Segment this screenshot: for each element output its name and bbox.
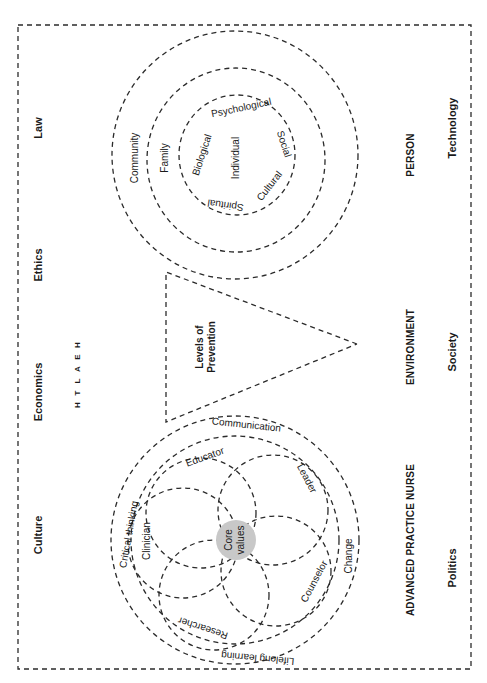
lifelong-learning-label: Lifelong learning [221,650,295,667]
leader-label: Leader [295,462,320,495]
biological-label: Biological [190,133,214,177]
clinician-label: Clinician [141,522,152,560]
context-economics: Economics [32,363,44,422]
educator-label: Educator [184,444,226,468]
core-label: Core [223,529,234,551]
context-technology: Technology [446,97,458,159]
apn-group: Core values Communication Change Lifelon… [111,415,359,667]
social-label: Social [275,129,294,158]
health-letter: E [73,354,82,360]
critical-thinking-label: Critical thinking [117,500,140,569]
apn-title: ADVANCED PRACTICE NURSE [405,464,416,616]
environment-title: ENVIRONMENT [405,309,416,385]
levels-of-label: Levels of [194,325,205,369]
health-letter: A [73,366,82,372]
change-label: Change [343,538,354,573]
values-label: values [235,526,246,555]
person-group: Community Family Individual Biological P… [112,31,358,279]
individual-label: Individual [230,137,241,179]
context-politics: Politics [446,548,458,587]
health-letter: H [73,402,82,408]
community-label: Community [129,133,140,184]
context-culture: Culture [32,516,44,555]
context-law: Law [32,117,44,139]
prevention-label: Prevention [206,321,217,373]
spiritual-label: Spiritual [207,198,244,214]
communication-label: Communication [211,415,281,433]
apn-model-diagram: Community Family Individual Biological P… [0,0,487,683]
context-society: Society [446,332,458,372]
health-letter: H [73,342,82,348]
environment-frame [18,25,471,669]
health-letter: L [73,378,82,383]
researcher-label: Researcher [176,615,229,642]
family-label: Family [159,143,170,172]
person-title: PERSON [405,133,416,176]
health-letter: T [73,390,82,395]
psychological-label: Psychological [210,96,272,119]
counselor-label: Counselor [298,558,329,604]
environment-group: Levels of Prevention [166,272,357,422]
cultural-label: Cultural [254,169,284,203]
context-ethics: Ethics [32,248,44,281]
health-label: H E A L T H [73,342,82,408]
